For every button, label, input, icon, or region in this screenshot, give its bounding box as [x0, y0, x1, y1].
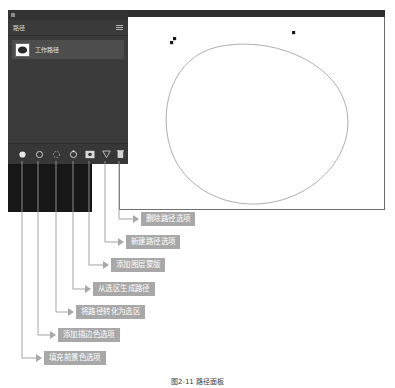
- path-to-selection-icon[interactable]: [51, 149, 62, 160]
- ellipse-path-icon: [120, 11, 384, 209]
- path-thumbnail-icon: [15, 43, 30, 57]
- callout-arrow: [118, 238, 124, 246]
- callout-new-path: 新建路径选项: [126, 235, 180, 249]
- tab-paths[interactable]: 路径: [13, 22, 25, 33]
- panel-menu-icon[interactable]: [116, 25, 123, 31]
- callout-arrow: [133, 215, 139, 223]
- path-item-label: 工作路径: [35, 45, 59, 54]
- paths-panel-footer: [8, 143, 128, 164]
- paths-list: 工作路径: [8, 36, 128, 143]
- callout-delete-path: 删除路径选项: [141, 212, 195, 226]
- callout-stroke-color: 添加描边色选项: [58, 328, 120, 342]
- callout-arrow: [103, 261, 109, 269]
- add-layer-mask-icon[interactable]: [84, 149, 95, 160]
- panel-tab-row: 路径: [8, 20, 128, 36]
- screenshot-root: 路径 工作路径: [0, 0, 395, 388]
- callout-arrow: [50, 331, 56, 339]
- document-titlebar[interactable]: [119, 10, 385, 17]
- anchor-point: [170, 41, 173, 44]
- document-canvas[interactable]: [120, 11, 384, 209]
- list-item-work-path[interactable]: 工作路径: [12, 40, 124, 59]
- callout-arrow: [85, 285, 91, 293]
- callout-arrow: [68, 308, 74, 316]
- callout-add-layer-mask: 添加图层蒙版: [111, 258, 165, 272]
- paths-panel: 路径 工作路径: [8, 10, 128, 162]
- new-path-icon[interactable]: [101, 149, 112, 160]
- document-window: [119, 10, 385, 210]
- delete-path-icon[interactable]: [115, 149, 126, 160]
- selection-to-path-icon[interactable]: [68, 149, 79, 160]
- anchor-point: [173, 37, 176, 40]
- anchor-point: [292, 31, 295, 34]
- toolbar-shadow-block: [8, 161, 92, 212]
- stroke-color-icon[interactable]: [34, 149, 45, 160]
- callout-fill-foreground: 填充前景色选项: [44, 351, 106, 365]
- panel-close-icon[interactable]: [11, 13, 15, 17]
- callout-path-to-selection: 将路径转化为选区: [76, 305, 145, 319]
- figure-caption: 图2-11 路径面板: [0, 376, 395, 386]
- callout-selection-to-path: 从选区生成路径: [93, 282, 155, 296]
- fill-foreground-color-icon[interactable]: [17, 149, 28, 160]
- panel-topbar[interactable]: [8, 10, 128, 20]
- callout-arrow: [36, 354, 42, 362]
